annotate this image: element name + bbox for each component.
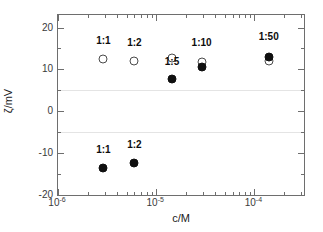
y-axis-tick-label: 20 [42,21,53,32]
x-axis-minor-tick [186,192,187,195]
x-axis-minor-tick [88,192,89,195]
data-point-filled [264,52,273,61]
x-axis-tick-label: 10-5 [147,197,164,208]
x-axis-tick [58,15,59,21]
x-axis-minor-tick [301,15,302,18]
point-annotation: 1:5 [165,56,179,67]
data-point-filled [197,63,206,72]
point-annotation: 1:50 [259,31,279,42]
x-axis-tick [156,189,157,195]
x-axis-minor-tick [233,192,234,195]
x-axis-minor-tick [245,15,246,18]
x-axis-minor-tick [250,192,251,195]
y-axis-minor-tick [301,132,304,133]
x-axis-minor-tick [245,192,246,195]
x-axis-tick-label: 10-6 [48,197,65,208]
y-axis-tick [58,153,64,154]
x-axis-minor-tick [284,192,285,195]
y-axis-minor-tick [58,90,61,91]
y-axis-minor-tick [58,174,61,175]
x-axis-minor-tick [147,15,148,18]
x-axis-minor-tick [117,15,118,18]
y-axis-tick [298,111,304,112]
y-axis-title: ζ/mV [2,71,14,131]
point-annotation: 1:1 [96,35,110,46]
x-axis-minor-tick [186,15,187,18]
data-point-open [130,57,139,66]
x-axis-minor-tick [284,15,285,18]
x-axis-minor-tick [203,15,204,18]
point-annotation: 1:2 [127,37,141,48]
x-axis-minor-tick [117,192,118,195]
x-axis-minor-tick [239,15,240,18]
x-axis-minor-tick [141,15,142,18]
x-axis-tick [254,15,255,21]
x-axis-minor-tick [134,192,135,195]
x-axis-minor-tick [147,192,148,195]
x-axis-tick [58,189,59,195]
x-axis-tick [156,15,157,21]
data-point-filled [99,163,108,172]
point-annotation: 1:1 [96,144,110,155]
y-axis-tick-label: 0 [47,105,53,116]
y-axis-tick-label: 10 [42,63,53,74]
x-axis-tick-label: 10-4 [245,197,262,208]
y-axis-tick [298,69,304,70]
x-axis-minor-tick [225,15,226,18]
data-point-filled [168,74,177,83]
y-axis-tick-labels: 20100-10-20 [22,14,53,196]
y-axis-tick [298,195,304,196]
plot-area: 1:11:21:51:101:501:11:2 [57,14,305,196]
x-axis-minor-tick [105,192,106,195]
x-axis-minor-tick [105,15,106,18]
x-axis-minor-tick [301,192,302,195]
y-axis-tick [298,153,304,154]
y-axis-minor-tick [301,90,304,91]
y-axis-minor-tick [58,48,61,49]
y-axis-minor-tick [301,48,304,49]
x-axis-minor-tick [127,15,128,18]
point-annotation: 1:2 [127,139,141,150]
x-axis-minor-tick [215,15,216,18]
chart-figure: 20100-10-20 ζ/mV 1:11:21:51:101:501:11:2… [0,0,323,232]
y-axis-tick [298,28,304,29]
y-axis-minor-tick [301,174,304,175]
x-axis-minor-tick [152,192,153,195]
y-axis-tick [58,111,64,112]
gridline-y [58,90,304,91]
x-axis-minor-tick [134,15,135,18]
y-axis-minor-tick [58,132,61,133]
x-axis-minor-tick [239,192,240,195]
x-axis-minor-tick [250,15,251,18]
x-axis-minor-tick [225,192,226,195]
x-axis-minor-tick [127,192,128,195]
x-axis-minor-tick [141,192,142,195]
x-axis-minor-tick [203,192,204,195]
y-axis-tick-label: -10 [39,147,53,158]
x-axis-tick-labels: 10-610-510-4 [57,197,305,213]
y-axis-tick [58,28,64,29]
x-axis-tick [254,189,255,195]
gridline-y [58,132,304,133]
y-axis-tick [58,69,64,70]
x-axis-minor-tick [152,15,153,18]
x-axis-title: c/M [57,212,305,224]
x-axis-minor-tick [233,15,234,18]
x-axis-minor-tick [88,15,89,18]
data-point-filled [130,159,139,168]
point-annotation: 1:10 [192,37,212,48]
data-point-open [99,55,108,64]
x-axis-minor-tick [215,192,216,195]
